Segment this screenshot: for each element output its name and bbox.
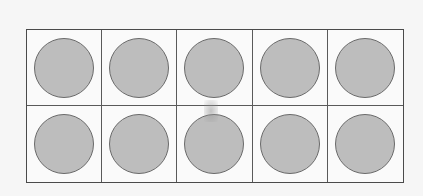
- counter-circle-icon: [109, 114, 169, 174]
- ten-frame-cell: [253, 106, 328, 182]
- ten-frame-cell: [102, 30, 177, 106]
- ten-frame-cell: [328, 106, 403, 182]
- ten-frame-cell: [27, 106, 102, 182]
- counter-circle-icon: [184, 38, 244, 98]
- counter-circle-icon: [335, 114, 395, 174]
- counter-circle-icon: [34, 38, 94, 98]
- counter-circle-icon: [335, 38, 395, 98]
- counter-circle-icon: [109, 38, 169, 98]
- ten-frame-cell: [253, 30, 328, 106]
- ten-frame-cell: [27, 30, 102, 106]
- ten-frame: [26, 29, 404, 183]
- ten-frame-cell: [177, 106, 252, 182]
- counter-circle-icon: [34, 114, 94, 174]
- counter-circle-icon: [260, 38, 320, 98]
- ten-frame-cell: [328, 30, 403, 106]
- ten-frame-cell: [177, 30, 252, 106]
- ten-frame-cell: [102, 106, 177, 182]
- counter-circle-icon: [260, 114, 320, 174]
- counter-circle-icon: [184, 114, 244, 174]
